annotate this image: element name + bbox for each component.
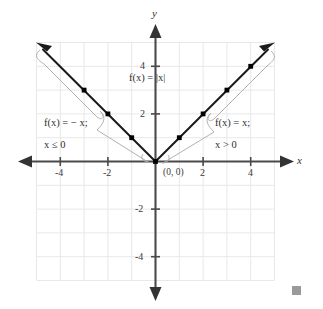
point-3-3 <box>225 88 230 93</box>
corner-marker-square <box>292 286 301 295</box>
x-tick-4: 4 <box>248 168 253 178</box>
y-tick-2: 2 <box>140 109 145 119</box>
equation-right-branch: f(x) = x; <box>215 118 250 129</box>
equation-absolute-value: f(x) = |x| <box>129 73 165 84</box>
point-2-2 <box>201 112 206 117</box>
domain-left-branch: x ≤ 0 <box>44 140 66 151</box>
absolute-value-graph <box>0 0 323 309</box>
x-tick-neg2: -2 <box>103 168 111 178</box>
equation-left-branch: f(x) = − x; <box>44 118 88 129</box>
point-1-1 <box>177 135 182 140</box>
point-origin <box>153 159 158 164</box>
domain-right-branch: x > 0 <box>215 140 237 151</box>
x-axis-label: x <box>297 155 302 166</box>
point-neg1-1 <box>129 135 134 140</box>
origin-point-label: (0, 0) <box>163 168 184 178</box>
y-tick-neg2: -2 <box>135 204 143 214</box>
point-neg2-2 <box>106 112 111 117</box>
x-tick-neg4: -4 <box>55 168 63 178</box>
y-tick-4: 4 <box>140 61 145 71</box>
x-tick-2: 2 <box>200 168 205 178</box>
y-tick-neg4: -4 <box>135 252 143 262</box>
point-neg3-3 <box>82 88 87 93</box>
point-4-4 <box>248 64 253 69</box>
y-axis-label: y <box>152 8 157 19</box>
